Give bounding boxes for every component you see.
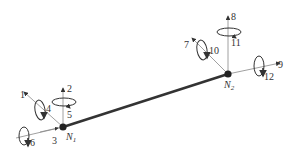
dof-label-12: 12 bbox=[264, 71, 274, 82]
dof-label-3: 3 bbox=[52, 135, 57, 146]
node-2 bbox=[224, 70, 231, 77]
dof-label-7: 7 bbox=[184, 39, 189, 50]
node-1 bbox=[59, 123, 66, 130]
dof-3-arrow bbox=[40, 128, 58, 132]
beam-element-dof-diagram: 1 2 3 4 5 6 7 8 9 10 11 12 N1 N2 bbox=[0, 0, 300, 158]
dof-label-11: 11 bbox=[231, 37, 241, 48]
dof-5-rotation-icon bbox=[52, 98, 76, 106]
dof-1-arrow bbox=[24, 92, 63, 127]
dof-label-5: 5 bbox=[67, 109, 72, 120]
node-2-label: N2 bbox=[223, 79, 235, 92]
dof-label-2: 2 bbox=[67, 83, 72, 94]
dof-label-10: 10 bbox=[209, 45, 219, 56]
dof-label-9: 9 bbox=[278, 59, 283, 70]
dof-label-4: 4 bbox=[46, 103, 51, 114]
dof-label-8: 8 bbox=[231, 11, 236, 22]
node-1-label: N1 bbox=[65, 131, 76, 144]
dof-label-6: 6 bbox=[30, 137, 35, 148]
dof-label-1: 1 bbox=[20, 89, 25, 100]
beam-element bbox=[63, 74, 228, 127]
dof-11-rotation-icon bbox=[217, 28, 241, 36]
